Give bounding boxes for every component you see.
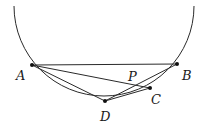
point-d: [103, 99, 107, 103]
circle-arc: [14, 6, 194, 96]
label-a: A: [15, 68, 25, 83]
label-d: D: [99, 109, 111, 124]
segment-ad: [32, 65, 105, 101]
point-b: [175, 62, 179, 66]
point-c: [148, 86, 152, 90]
geometry-diagram: A B C D P: [0, 0, 206, 128]
segment-db: [105, 64, 177, 101]
label-c: C: [151, 92, 161, 107]
label-p: P: [127, 69, 137, 84]
label-b: B: [181, 68, 192, 83]
point-a: [30, 63, 34, 67]
segment-ab: [32, 64, 177, 65]
